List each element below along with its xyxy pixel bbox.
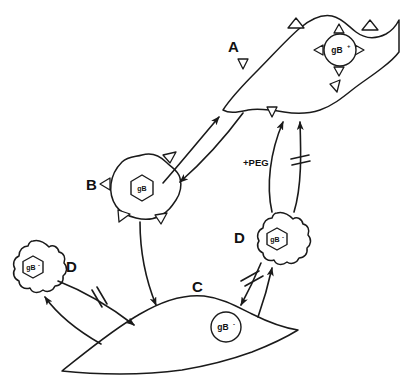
nucleus-a-label: gB (331, 45, 342, 55)
cell-c-group: gB - C (62, 278, 298, 374)
peg-annotation-label: +PEG (243, 157, 269, 168)
cell-c-nucleus: gB - (211, 312, 241, 342)
arrow-d-right-to-c-blocked (241, 263, 261, 305)
nucleus-b-label: gB (137, 185, 146, 193)
arrow-d-right-to-a-peg (269, 122, 283, 212)
cell-a-group: gB + A (223, 16, 399, 118)
arrow-b-to-a (163, 117, 219, 183)
cell-b-nucleus: gB (131, 175, 153, 201)
cell-a-spike-top-1 (288, 18, 304, 28)
cell-b-spike-left (100, 178, 110, 190)
cell-fusion-diagram: gB + A gB B gB - (0, 0, 400, 381)
nucleus-d-right-label-sup: - (282, 234, 284, 240)
nucleus-c-label-sup: - (233, 321, 235, 327)
arrow-d-left-to-c-blocked (58, 281, 134, 325)
cell-c-outline (62, 296, 298, 374)
cell-d-right-group: gB - D (234, 212, 311, 264)
cell-d-right-nucleus: gB - (267, 228, 287, 250)
panel-label-d-right: D (234, 229, 245, 246)
cell-a-spike-left (238, 59, 248, 69)
figure-canvas: gB + A gB B gB - (0, 0, 400, 381)
arrow-c-to-d-right (258, 268, 272, 317)
nucleus-a-label-sup: + (347, 43, 351, 49)
cell-b-spike-bottomright (155, 213, 167, 224)
nucleus-d-left-label: gB (26, 264, 35, 272)
nucleus-d-left-label-sup: - (38, 262, 40, 268)
panel-label-c: C (192, 278, 203, 295)
nucleus-d-right-label: gB (270, 236, 279, 244)
arrow-b-to-c (140, 222, 156, 305)
cell-b-group: gB B (86, 152, 181, 224)
cell-a-spike-top-2 (362, 20, 378, 30)
cell-d-left-nucleus: gB - (23, 256, 43, 278)
arrow-d-right-to-a-blocked (294, 122, 301, 212)
arrow-c-to-d-left (45, 297, 101, 344)
panel-label-b: B (86, 176, 97, 193)
panel-label-d-left: D (66, 258, 77, 275)
cell-a-spike-bottom-1 (267, 107, 277, 117)
panel-label-a: A (228, 38, 239, 55)
arrow-a-to-b (180, 113, 243, 182)
nucleus-c-label: gB (217, 322, 228, 332)
